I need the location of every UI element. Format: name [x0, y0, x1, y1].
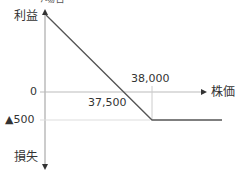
payoff-line	[46, 15, 222, 120]
x-axis-arrow-icon	[201, 89, 207, 95]
minus500-tick: ▲500	[5, 114, 34, 125]
strike-label: 38,000	[131, 73, 170, 84]
y-axis-down-arrow-icon	[42, 164, 48, 170]
y-axis-up-arrow-icon	[42, 9, 48, 15]
top-caption: ｱ場合	[40, 0, 65, 4]
zero-tick: 0	[30, 86, 37, 97]
stock-price-label: 株価	[211, 86, 235, 98]
breakeven-label: 37,500	[88, 97, 127, 108]
loss-label: 損失	[14, 151, 38, 163]
profit-label: 利益	[14, 10, 38, 22]
